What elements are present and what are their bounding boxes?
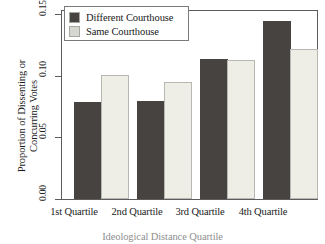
legend-item-same-courthouse: Same Courthouse	[69, 24, 184, 38]
bar-different-courthouse-4	[263, 21, 291, 199]
bar-same-courthouse-1	[101, 75, 129, 199]
x-tick-label-3: 3rd Quartile	[165, 206, 235, 217]
bar-different-courthouse-1	[74, 102, 102, 199]
y-tick-mark-1	[55, 137, 61, 138]
bar-same-courthouse-4	[290, 49, 318, 199]
bar-group-4	[263, 10, 321, 199]
y-tick-label-2: 0.10	[38, 52, 48, 86]
legend-item-different-courthouse: Different Courthouse	[69, 10, 184, 24]
y-tick-mark-0	[55, 199, 61, 200]
bar-same-courthouse-2	[164, 82, 192, 199]
legend-swatch-icon-different-courthouse	[69, 12, 80, 23]
bar-chart-figure: Proportion of Dissenting or Concurring V…	[0, 0, 325, 244]
y-tick-label-0: 0.00	[38, 176, 48, 210]
bar-same-courthouse-3	[227, 60, 255, 199]
x-axis-line	[61, 199, 318, 200]
chart-legend: Different Courthouse Same Courthouse	[64, 6, 189, 41]
legend-swatch-icon-same-courthouse	[69, 26, 80, 37]
y-tick-label-3: 0.15	[38, 0, 48, 25]
x-tick-label-2: 2nd Quartile	[102, 206, 172, 217]
x-tick-label-1: 1st Quartile	[39, 206, 109, 217]
y-tick-mark-2	[55, 76, 61, 77]
y-tick-label-1: 0.05	[38, 114, 48, 148]
bar-different-courthouse-2	[137, 101, 165, 199]
legend-label-same-courthouse: Same Courthouse	[86, 26, 159, 37]
x-axis-title: Ideological Distance Quartile	[0, 231, 325, 242]
bar-group-3	[200, 10, 258, 199]
x-tick-label-4: 4th Quartile	[228, 206, 298, 217]
y-tick-mark-3	[55, 14, 61, 15]
bar-different-courthouse-3	[200, 59, 228, 199]
y-axis-title-line-1: Proportion of Dissenting or	[16, 60, 28, 173]
legend-label-different-courthouse: Different Courthouse	[86, 12, 173, 23]
